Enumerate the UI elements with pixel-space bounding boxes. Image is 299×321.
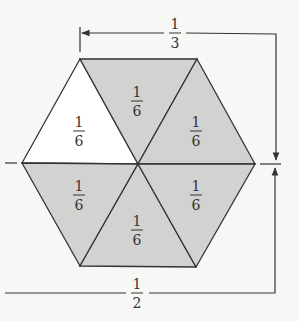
svg-text:3: 3 [171,35,180,51]
label-lower-right: 1 6 [190,178,202,213]
label-top: 1 6 [131,84,143,119]
svg-text:1: 1 [192,178,201,194]
svg-text:6: 6 [75,133,84,149]
hexagon-diagram: 1 6 1 6 1 6 1 6 1 6 1 6 1 3 [0,0,299,321]
svg-text:1: 1 [133,276,142,292]
label-upper-left: 1 6 [73,114,85,149]
svg-text:6: 6 [192,197,201,213]
svg-text:2: 2 [133,295,142,311]
svg-text:1: 1 [75,114,84,130]
label-bottom: 1 6 [131,213,143,248]
svg-text:6: 6 [133,232,142,248]
svg-text:6: 6 [192,133,201,149]
svg-text:6: 6 [75,197,84,213]
svg-text:1: 1 [171,16,180,32]
svg-text:1: 1 [133,84,142,100]
svg-text:1: 1 [75,178,84,194]
svg-text:1: 1 [192,114,201,130]
label-upper-right: 1 6 [190,114,202,149]
svg-text:6: 6 [133,103,142,119]
svg-text:1: 1 [133,213,142,229]
label-lower-left: 1 6 [73,178,85,213]
